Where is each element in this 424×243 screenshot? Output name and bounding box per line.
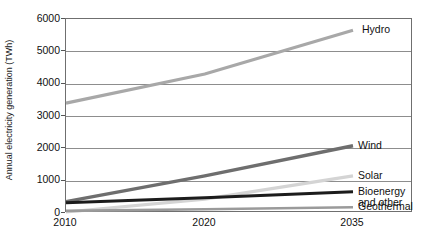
series-label-solar: Solar bbox=[358, 170, 383, 181]
series-lines bbox=[66, 19, 413, 213]
y-tick-2000: 2000 bbox=[20, 142, 60, 152]
series-label-geothermal: Geothermal bbox=[358, 201, 413, 212]
series-label-wind: Wind bbox=[358, 140, 382, 151]
chart-container: Annual electricity generation (TWh) 6000… bbox=[0, 0, 424, 243]
y-tick-5000: 5000 bbox=[20, 45, 60, 55]
x-tick-2020: 2020 bbox=[174, 216, 234, 228]
y-tickmark-0 bbox=[61, 212, 65, 213]
y-tick-3000: 3000 bbox=[20, 110, 60, 120]
plot-area: Hydro Wind Solar Bioenergy and other Geo… bbox=[65, 18, 412, 212]
x-tick-2035: 2035 bbox=[322, 216, 382, 228]
y-tick-4000: 4000 bbox=[20, 77, 60, 87]
x-tick-2010: 2010 bbox=[35, 216, 95, 228]
y-axis-tick-group: 6000 5000 4000 3000 2000 1000 0 bbox=[18, 0, 60, 243]
y-axis-title: Annual electricity generation (TWh) bbox=[4, 5, 14, 215]
y-tick-6000: 6000 bbox=[20, 13, 60, 23]
series-label-hydro: Hydro bbox=[362, 24, 390, 35]
y-tick-1000: 1000 bbox=[20, 174, 60, 184]
series-line-hydro bbox=[66, 30, 353, 103]
